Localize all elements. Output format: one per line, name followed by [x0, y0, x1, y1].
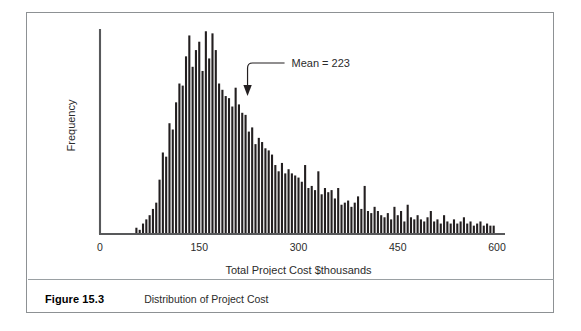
- histogram-bar: [261, 142, 263, 234]
- histogram-bar: [215, 50, 217, 234]
- caption-row: Figure 15.3 Distribution of Project Cost: [27, 285, 555, 313]
- histogram-bar: [178, 84, 180, 234]
- histogram-bar: [311, 186, 313, 234]
- histogram-bar: [152, 209, 154, 234]
- histogram-bar: [304, 165, 306, 234]
- histogram-bar: [334, 198, 336, 234]
- histogram-bar: [400, 211, 402, 234]
- histogram-bar: [195, 50, 197, 234]
- histogram-bar: [357, 196, 359, 234]
- histogram-bar: [248, 132, 250, 234]
- histogram-bar: [493, 226, 495, 234]
- histogram-chart: 0150300450600Total Project Cost $thousan…: [27, 13, 555, 275]
- histogram-bar: [221, 90, 223, 234]
- histogram-bar: [202, 71, 204, 234]
- histogram-bar: [165, 157, 167, 234]
- histogram-bar: [433, 221, 435, 234]
- histogram-bar: [168, 123, 170, 234]
- histogram-bar: [446, 221, 448, 234]
- histogram-bar: [479, 221, 481, 234]
- histogram-bar: [297, 178, 299, 234]
- histogram-bar: [354, 203, 356, 234]
- histogram-bar: [231, 107, 233, 234]
- histogram-bar: [466, 224, 468, 234]
- histogram-bar: [463, 217, 465, 234]
- histogram-bar: [423, 221, 425, 234]
- histogram-bar: [155, 203, 157, 234]
- histogram-bar: [182, 86, 184, 234]
- histogram-bar: [268, 150, 270, 234]
- x-axis-title: Total Project Cost $thousands: [225, 264, 372, 275]
- histogram-bar: [367, 211, 369, 234]
- histogram-bar: [188, 35, 190, 234]
- histogram-bar: [228, 98, 230, 234]
- plot-area: 0150300450600Total Project Cost $thousan…: [27, 13, 555, 275]
- histogram-bar: [436, 219, 438, 234]
- histogram-bar: [192, 67, 194, 234]
- histogram-bar: [473, 226, 475, 234]
- figure-frame: 0150300450600Total Project Cost $thousan…: [26, 12, 554, 313]
- histogram-bar: [307, 188, 309, 234]
- figure-caption: Distribution of Project Cost: [144, 293, 268, 305]
- histogram-bar: [417, 215, 419, 234]
- histogram-bar: [450, 224, 452, 234]
- figure-number: Figure 15.3: [45, 293, 104, 305]
- x-tick-label: 150: [191, 241, 209, 253]
- mean-annotation-label: Mean = 223: [292, 57, 350, 69]
- histogram-bar: [413, 219, 415, 234]
- histogram-bar: [360, 209, 362, 234]
- histogram-bar: [317, 171, 319, 234]
- histogram-bar: [383, 217, 385, 234]
- histogram-bar: [486, 224, 488, 234]
- histogram-bar: [377, 211, 379, 234]
- histogram-bar: [403, 221, 405, 234]
- histogram-bar: [397, 215, 399, 234]
- x-tick-label: 300: [290, 241, 308, 253]
- histogram-bar: [374, 207, 376, 234]
- histogram-bar: [291, 173, 293, 234]
- histogram-bar: [271, 155, 273, 234]
- histogram-bar: [331, 190, 333, 234]
- histogram-bar: [364, 186, 366, 234]
- histogram-bar: [337, 188, 339, 234]
- x-axis-ticks: 0150300450600: [97, 241, 506, 253]
- x-tick-label: 450: [389, 241, 407, 253]
- histogram-bar: [149, 215, 151, 234]
- histogram-bar: [211, 33, 213, 234]
- histogram-bar: [443, 215, 445, 234]
- histogram-bar: [264, 148, 266, 234]
- histogram-bar: [225, 96, 227, 234]
- histogram-bar: [387, 213, 389, 234]
- histogram-bar: [390, 219, 392, 234]
- histogram-bar: [175, 102, 177, 234]
- histogram-bar: [347, 201, 349, 234]
- histogram-bar: [254, 144, 256, 234]
- histogram-bar: [218, 84, 220, 234]
- histogram-bar: [327, 192, 329, 234]
- histogram-bar: [185, 56, 187, 234]
- histogram-bar: [245, 115, 247, 234]
- histogram-bar: [205, 31, 207, 234]
- histogram-bar: [370, 213, 372, 234]
- histogram-bar: [142, 224, 144, 234]
- histogram-bar: [172, 130, 174, 235]
- histogram-bar: [278, 171, 280, 234]
- histogram-bar: [284, 173, 286, 234]
- histogram-bar: [426, 217, 428, 234]
- mean-annotation: Mean = 223: [243, 57, 350, 96]
- caption-divider: [28, 279, 554, 280]
- histogram-bar: [407, 205, 409, 234]
- histogram-bar: [251, 127, 253, 234]
- histogram-bar: [281, 163, 283, 234]
- histogram-bar: [350, 207, 352, 234]
- histogram-bar: [324, 188, 326, 234]
- histogram-bar: [241, 113, 243, 234]
- histogram-bar: [198, 42, 200, 234]
- histogram-bar: [456, 224, 458, 234]
- histogram-bar: [393, 207, 395, 234]
- histogram-bar: [380, 215, 382, 234]
- histogram-bar: [489, 226, 491, 234]
- histogram-bar: [340, 205, 342, 234]
- histogram-bar: [344, 203, 346, 234]
- histogram-bar: [288, 169, 290, 234]
